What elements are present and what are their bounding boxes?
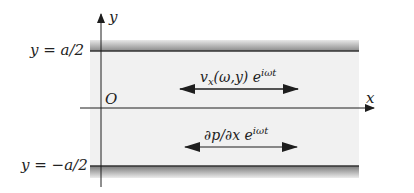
lower-wall-label: y = −a/2 [21, 158, 88, 173]
origin-label: O [105, 92, 117, 107]
y-axis-label: y [109, 10, 117, 25]
pressure-gradient-label: ∂p/∂x eiωt [204, 126, 268, 142]
pressure-gradient-symbol: ∂p/∂x e [204, 127, 253, 143]
velocity-symbol: v [200, 69, 208, 85]
upper-wall-label: y = a/2 [30, 43, 84, 58]
velocity-label: vx(ω,y) eiωt [200, 68, 276, 87]
diagram-canvas: y x O y = a/2 y = −a/2 vx(ω,y) eiωt ∂p/∂… [0, 0, 414, 193]
lower-wall [90, 166, 359, 178]
velocity-exponent: iωt [261, 67, 276, 78]
x-axis-label: x [366, 91, 374, 106]
velocity-args: (ω,y) e [214, 69, 261, 85]
pressure-gradient-exponent: iωt [253, 125, 268, 136]
upper-wall [90, 40, 359, 51]
